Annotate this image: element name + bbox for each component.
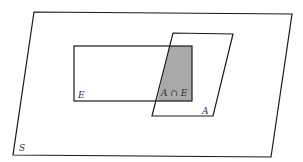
set-s-parallelogram — [13, 12, 292, 157]
intersection-label: A ∩ E — [160, 88, 188, 98]
set-e-label: E — [77, 90, 85, 100]
set-a-label: A — [201, 106, 209, 116]
set-s-label: S — [19, 143, 25, 153]
venn-diagram: E A ∩ E A S — [0, 0, 303, 162]
